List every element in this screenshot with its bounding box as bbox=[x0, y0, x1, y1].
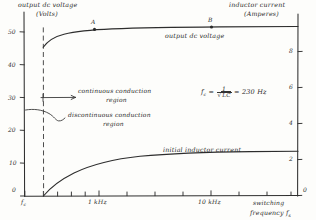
critical-frequency-formula: fc = 1 √LC = 230 Hz bbox=[201, 86, 267, 99]
initial-inductor-current-curve bbox=[43, 151, 298, 196]
discontinuous-conduction-region-label-line2: region bbox=[103, 121, 124, 128]
formula-denominator: √LC bbox=[217, 93, 232, 99]
x-origin-subscript: c bbox=[23, 202, 26, 207]
x-tick-10khz: 10 kHz bbox=[198, 199, 221, 206]
initial-inductor-current-curve-label: initial inductor current bbox=[163, 146, 241, 153]
continuous-conduction-region-label-line2: region bbox=[106, 97, 127, 104]
formula-radicand: LC bbox=[221, 91, 230, 98]
figure-canvas: output dc voltage (Volts) inductor curre… bbox=[0, 0, 316, 220]
marker-label-a: A bbox=[91, 19, 96, 26]
continuous-conduction-region-label-line1: continuous conduction bbox=[78, 88, 151, 95]
x-axis bbox=[25, 195, 299, 196]
formula-equals-2: = bbox=[234, 88, 240, 96]
plot-vector-layer bbox=[0, 0, 316, 220]
x-axis-title-word: frequency bbox=[250, 209, 284, 216]
output-dc-voltage-curve-label: output dc voltage bbox=[165, 32, 224, 39]
y-right-tick-8: 8 bbox=[289, 47, 293, 54]
y-left-tick-40: 40 bbox=[8, 61, 16, 68]
formula-equals-1: = bbox=[209, 88, 215, 96]
formula-lhs-subscript: c bbox=[204, 92, 207, 97]
y-left-tick-0: 0 bbox=[12, 186, 16, 193]
y-right-tick-6: 6 bbox=[289, 83, 293, 90]
y-right-tick-4: 4 bbox=[289, 119, 293, 126]
y-right-tick-2: 2 bbox=[289, 155, 293, 162]
discontinuous-region-pointer bbox=[26, 109, 66, 121]
y-left-tick-10: 10 bbox=[9, 159, 17, 166]
y-left-tick-30: 30 bbox=[8, 94, 16, 101]
discontinuous-conduction-region-label-line1: discontinuous conduction bbox=[68, 112, 151, 119]
x-axis-title-line2: frequency fs bbox=[250, 209, 291, 219]
y-axis-left-title-line1: output dc voltage bbox=[18, 1, 77, 8]
x-axis-title-symbol-subscript: s bbox=[289, 213, 291, 218]
y-left-tick-20: 20 bbox=[8, 126, 16, 133]
x-axis-origin-label: fc bbox=[21, 199, 26, 208]
y-axis-right-title-line2: (Amperes) bbox=[244, 10, 279, 17]
formula-fraction: 1 √LC bbox=[217, 86, 232, 99]
y-right-tick-0: 0 bbox=[303, 186, 307, 193]
formula-result: 230 Hz bbox=[242, 88, 267, 96]
left-axis bbox=[24, 12, 25, 196]
x-axis-title-line1: switching bbox=[253, 200, 284, 207]
marker-point-a bbox=[93, 28, 96, 31]
y-axis-left-title-line2: (Volts) bbox=[36, 10, 58, 17]
continuous-region-arrow bbox=[41, 94, 76, 101]
y-left-tick-50: 50 bbox=[8, 28, 16, 35]
marker-point-b bbox=[210, 25, 213, 28]
marker-label-b: B bbox=[208, 17, 213, 24]
x-tick-1khz: 1 kHz bbox=[88, 199, 107, 206]
y-axis-right-title-line1: inductor current bbox=[229, 1, 285, 8]
